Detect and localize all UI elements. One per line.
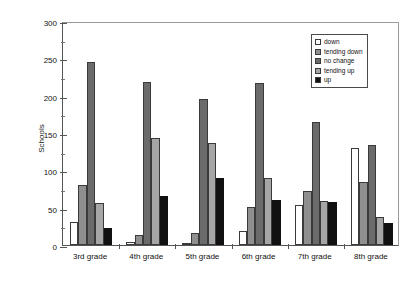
bar: [368, 145, 376, 245]
bar: [216, 178, 224, 245]
bar: [151, 138, 159, 245]
y-tick-label: 200: [11, 93, 63, 102]
bar: [78, 185, 86, 245]
y-tick-label: 300: [11, 19, 63, 28]
y-tick-label: 150: [11, 131, 63, 140]
y-tick-mark: [60, 247, 67, 248]
x-tick-mark: [119, 244, 120, 249]
x-tick-label: 5th grade: [186, 252, 220, 261]
legend-item: no change: [315, 57, 363, 65]
bar: [199, 99, 207, 245]
x-tick-label: 7th grade: [298, 252, 332, 261]
legend-label: tending up: [324, 67, 354, 75]
x-tick-mark: [344, 244, 345, 249]
x-tick-mark: [288, 244, 289, 249]
bar-group: [63, 23, 119, 245]
legend-item: down: [315, 38, 363, 46]
y-tick-label: 250: [11, 56, 63, 65]
bar: [143, 82, 151, 245]
bar-group: [119, 23, 175, 245]
bar: [272, 200, 280, 245]
bar: [239, 231, 247, 245]
bar: [247, 207, 255, 245]
bar: [359, 182, 367, 245]
x-tick-label: 6th grade: [242, 252, 276, 261]
bar: [351, 148, 359, 245]
legend-label: up: [324, 76, 331, 84]
x-tick-label: 4th grade: [129, 252, 163, 261]
legend-label: no change: [324, 57, 354, 65]
legend-item: tending up: [315, 67, 363, 75]
legend-label: tending down: [324, 48, 363, 56]
bar: [191, 233, 199, 245]
bar: [135, 235, 143, 245]
bar-group: [232, 23, 288, 245]
legend-swatch-icon: [315, 39, 321, 45]
bar: [126, 242, 134, 245]
x-tick-mark: [175, 244, 176, 249]
bar: [208, 143, 216, 245]
legend-swatch-icon: [315, 49, 321, 55]
bar: [70, 222, 78, 245]
legend-item: tending down: [315, 48, 363, 56]
bar: [303, 191, 311, 246]
chart-legend: downtending downno changetending upup: [311, 34, 368, 88]
legend-item: up: [315, 76, 363, 84]
y-tick-label: 100: [11, 168, 63, 177]
bar: [160, 196, 168, 245]
bar: [295, 205, 303, 245]
bar-chart: Schools 050100150200250300 3rd grade4th …: [0, 0, 417, 300]
legend-label: down: [324, 38, 340, 46]
y-tick-label: 50: [11, 205, 63, 214]
bar: [182, 243, 190, 245]
bar: [384, 223, 392, 245]
bar: [328, 202, 336, 245]
bar: [104, 228, 112, 245]
bar: [312, 122, 320, 245]
bar-group: [175, 23, 231, 245]
legend-swatch-icon: [315, 58, 321, 64]
bar: [255, 83, 263, 245]
y-tick-label: 0: [11, 243, 63, 252]
bar: [95, 203, 103, 245]
legend-swatch-icon: [315, 77, 321, 83]
x-tick-mark: [232, 244, 233, 249]
legend-swatch-icon: [315, 68, 321, 74]
bar: [87, 62, 95, 245]
x-tick-label: 3rd grade: [73, 252, 107, 261]
bar: [320, 201, 328, 245]
bar: [376, 217, 384, 245]
bar: [264, 178, 272, 245]
x-tick-label: 8th grade: [354, 252, 388, 261]
